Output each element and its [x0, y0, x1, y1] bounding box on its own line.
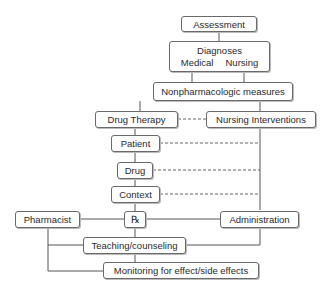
node-assessment-label: Assessment — [193, 19, 245, 30]
node-monitoring-label: Monitoring for effect/side effects — [114, 265, 248, 276]
node-pharmacist: Pharmacist — [15, 211, 80, 228]
node-drug-therapy: Drug Therapy — [95, 111, 178, 128]
node-drug-therapy-label: Drug Therapy — [108, 114, 166, 125]
node-drug-label: Drug — [125, 165, 146, 176]
node-administration-label: Administration — [229, 214, 289, 225]
node-rx: ℞ — [124, 211, 146, 228]
node-context: Context — [111, 186, 160, 203]
node-teaching-counseling: Teaching/counseling — [83, 237, 186, 254]
node-nursing-interventions: Nursing Interventions — [206, 111, 316, 128]
node-nursing-interventions-label: Nursing Interventions — [216, 114, 306, 125]
node-nonpharmacologic-measures: Nonpharmacologic measures — [153, 82, 293, 101]
node-diagnoses: Diagnoses Medical Nursing — [169, 41, 270, 72]
node-administration: Administration — [220, 211, 299, 228]
node-context-label: Context — [119, 189, 152, 200]
node-nonpharm-label: Nonpharmacologic measures — [161, 86, 285, 97]
node-pharmacist-label: Pharmacist — [24, 214, 72, 225]
node-assessment: Assessment — [181, 16, 257, 32]
node-teaching-label: Teaching/counseling — [91, 240, 177, 251]
node-patient-label: Patient — [121, 138, 151, 149]
node-diagnoses-title: Diagnoses — [197, 45, 242, 57]
node-drug: Drug — [117, 162, 153, 179]
node-diagnoses-nursing: Nursing — [226, 57, 259, 69]
rx-symbol-icon: ℞ — [131, 214, 140, 225]
node-patient: Patient — [111, 135, 160, 152]
node-monitoring: Monitoring for effect/side effects — [103, 262, 259, 279]
node-diagnoses-medical: Medical — [181, 57, 214, 69]
